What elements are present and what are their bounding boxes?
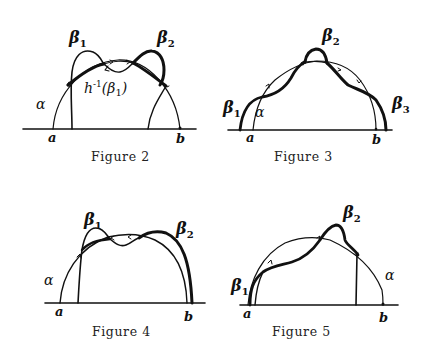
figure-4-alpha-label: α	[44, 273, 53, 287]
tick-mark	[128, 235, 131, 239]
figure-3-beta2-label: β2	[322, 28, 340, 47]
beta-dip	[110, 238, 139, 246]
beta1-beta2-curve	[250, 225, 358, 305]
figure-2-a-label: a	[48, 131, 56, 144]
beta1-overlap	[82, 239, 110, 250]
figure-3-beta1-label: β1	[223, 100, 241, 119]
figure-4-caption: Figure 4	[92, 324, 151, 339]
figure-5-a-label: a	[243, 307, 251, 320]
figures-canvas	[0, 0, 426, 350]
figure-4-a-label: a	[55, 305, 63, 318]
figure-3-alpha-label: α	[255, 105, 264, 119]
figure-2-b-label: b	[176, 132, 185, 145]
beta2-descent	[148, 86, 166, 129]
figure-5-alpha-label: α	[385, 268, 394, 282]
tick-mark	[338, 68, 341, 71]
beta2-descent	[356, 254, 357, 305]
figure-5-caption: Figure 5	[272, 324, 331, 339]
figure-2-alpha-label: α	[36, 97, 45, 111]
beta2-alpha-overlap	[133, 63, 166, 86]
figure-3-caption: Figure 3	[274, 149, 333, 164]
figure-3-beta3-label: β3	[392, 96, 410, 115]
figure-4-beta2-label: β2	[176, 221, 194, 240]
figure-3-b-label: b	[372, 133, 381, 146]
figure-5-beta1-label: β1	[231, 278, 249, 297]
point-b	[375, 128, 378, 131]
figure-3-a-label: a	[246, 131, 254, 144]
figure-4-beta1-label: β1	[84, 212, 102, 231]
beta3-curve	[327, 63, 386, 130]
figure-2-beta2-label: β2	[157, 30, 175, 49]
figure-5-b-label: b	[379, 311, 388, 324]
figure-2-beta1-label: β1	[69, 30, 87, 49]
figure-2-preimage-label: h-1(β1)	[84, 80, 127, 98]
figure-5-drawing	[240, 225, 398, 306]
point-b	[179, 127, 182, 130]
figure-2-caption: Figure 2	[91, 149, 150, 164]
figure-3-drawing	[228, 49, 392, 130]
figure-4-b-label: b	[184, 310, 193, 323]
beta1-curve	[240, 62, 305, 130]
point-b	[382, 303, 385, 306]
tick-mark	[268, 260, 272, 264]
beta2-curve	[139, 232, 192, 303]
figure-5-beta2-label: β2	[343, 205, 361, 224]
